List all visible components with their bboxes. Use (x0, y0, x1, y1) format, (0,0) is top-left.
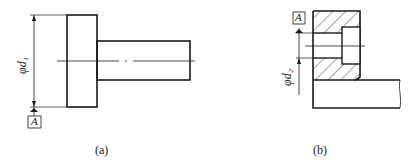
datum-triangle-b (295, 29, 303, 33)
figure-a (28, 15, 200, 128)
dimension-label-b: φd₂ (280, 69, 295, 86)
technical-drawing (0, 0, 415, 168)
datum-label-b: A (295, 11, 302, 23)
dimension-label-a: φd₁ (15, 57, 30, 74)
shaft (97, 41, 190, 80)
counterbore (342, 27, 360, 64)
datum-triangle (30, 108, 38, 112)
figure-b (293, 11, 401, 108)
caption-b: (b) (313, 143, 327, 158)
datum-label-a: A (31, 115, 38, 127)
caption-a: (a) (95, 143, 108, 158)
